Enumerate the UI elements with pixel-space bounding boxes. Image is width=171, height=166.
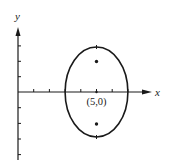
ellipse-diagram: y x (5,0) bbox=[0, 0, 171, 166]
x-axis-arrow-icon bbox=[142, 90, 152, 95]
x-axis-label: x bbox=[154, 86, 160, 98]
center-label: (5,0) bbox=[86, 96, 107, 108]
center-point bbox=[95, 91, 97, 93]
y-axis-label: y bbox=[14, 10, 20, 22]
focus-point-lower bbox=[95, 122, 98, 125]
y-axis-arrow-icon bbox=[16, 27, 21, 36]
focus-point-upper bbox=[95, 60, 98, 63]
